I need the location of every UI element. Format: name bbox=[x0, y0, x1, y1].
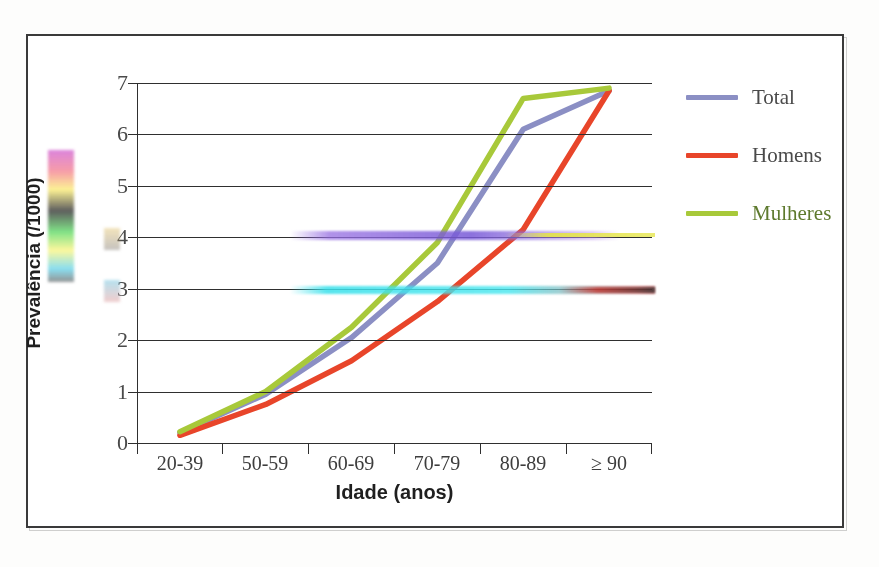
series-lines bbox=[137, 83, 652, 443]
chart-figure: 7 6 5 4 3 2 1 0 20-39 50-59 60-69 70-79 … bbox=[0, 0, 879, 567]
x-tick-0 bbox=[137, 443, 138, 454]
y-tick-label-6: 6 bbox=[117, 121, 128, 147]
x-tick-label-80-89: 80-89 bbox=[500, 452, 547, 475]
y-tick-4 bbox=[128, 237, 137, 238]
gridline-2 bbox=[137, 340, 652, 341]
x-tick-4 bbox=[480, 443, 481, 454]
legend-label-total: Total bbox=[752, 85, 795, 110]
y-tick-1 bbox=[128, 392, 137, 393]
legend-swatch-mulheres bbox=[686, 211, 738, 216]
gridline-7 bbox=[137, 83, 652, 84]
y-tick-label-1: 1 bbox=[117, 379, 128, 405]
legend-item-total[interactable]: Total bbox=[686, 68, 856, 126]
x-tick-1 bbox=[222, 443, 223, 454]
y-tick-0 bbox=[128, 443, 137, 444]
gridline-6 bbox=[137, 134, 652, 135]
y-tick-7 bbox=[128, 83, 137, 84]
x-tick-5 bbox=[566, 443, 567, 454]
y-tick-label-2: 2 bbox=[117, 327, 128, 353]
y-tick-label-5: 5 bbox=[117, 173, 128, 199]
legend-item-homens[interactable]: Homens bbox=[686, 126, 856, 184]
y-tick-6 bbox=[128, 134, 137, 135]
y-tick-label-3: 3 bbox=[117, 276, 128, 302]
x-tick-label-70-79: 70-79 bbox=[414, 452, 461, 475]
legend-swatch-homens bbox=[686, 153, 738, 158]
y-tick-label-4: 4 bbox=[117, 224, 128, 250]
y-tick-label-0: 0 bbox=[117, 430, 128, 456]
x-tick-6 bbox=[651, 443, 652, 454]
y-tick-label-7: 7 bbox=[117, 70, 128, 96]
x-tick-label-50-59: 50-59 bbox=[242, 452, 289, 475]
legend: Total Homens Mulheres bbox=[686, 68, 856, 242]
x-tick-label-90plus: ≥ 90 bbox=[591, 452, 627, 475]
x-axis-title: Idade (anos) bbox=[137, 481, 652, 504]
y-tick-3 bbox=[128, 289, 137, 290]
x-tick-3 bbox=[394, 443, 395, 454]
plot-area bbox=[137, 83, 652, 443]
y-axis-title: Prevalência (/1000) bbox=[23, 177, 45, 348]
gridline-4 bbox=[137, 237, 652, 238]
legend-item-mulheres[interactable]: Mulheres bbox=[686, 184, 856, 242]
gridline-1 bbox=[137, 392, 652, 393]
gridline-5 bbox=[137, 186, 652, 187]
x-tick-label-60-69: 60-69 bbox=[328, 452, 375, 475]
y-tick-5 bbox=[128, 186, 137, 187]
y-tick-labels: 7 6 5 4 3 2 1 0 bbox=[96, 83, 128, 443]
y-tick-2 bbox=[128, 340, 137, 341]
x-tick-label-20-39: 20-39 bbox=[157, 452, 204, 475]
x-tick-2 bbox=[308, 443, 309, 454]
legend-swatch-total bbox=[686, 95, 738, 100]
legend-label-homens: Homens bbox=[752, 143, 822, 168]
gridline-3 bbox=[137, 289, 652, 290]
legend-label-mulheres: Mulheres bbox=[752, 201, 831, 226]
